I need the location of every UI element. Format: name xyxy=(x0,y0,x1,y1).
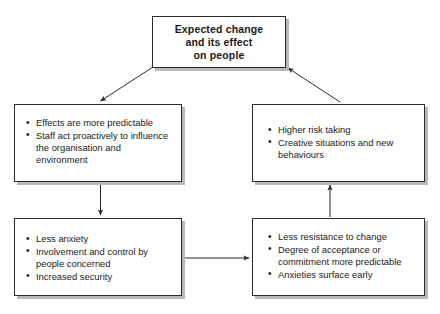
bullet-list: Higher risk taking Creative situations a… xyxy=(267,124,416,161)
list-item: Higher risk taking xyxy=(267,124,416,136)
list-item: Anxieties surface early xyxy=(267,269,416,281)
bullet-list: Less anxiety Involvement and control by … xyxy=(25,233,173,283)
list-item: Creative situations and new behaviours xyxy=(267,137,416,162)
list-item: Staff act proactively to influence the o… xyxy=(25,130,173,167)
node-less-anxiety: Less anxiety Involvement and control by … xyxy=(14,218,182,296)
list-item: Increased security xyxy=(25,271,173,283)
node-expected-change-title-line-3: on people xyxy=(194,49,245,61)
list-item: Less anxiety xyxy=(25,233,173,245)
node-higher-risk-body: Higher risk taking Creative situations a… xyxy=(253,105,424,170)
bullet-list: Effects are more predictable Staff act p… xyxy=(25,117,173,167)
list-item: Effects are more predictable xyxy=(25,117,173,129)
bullet-list: Less resistance to change Degree of acce… xyxy=(267,231,416,281)
page-edge-artifact xyxy=(0,0,440,11)
diagram-canvas: Expected change and its effect on people… xyxy=(0,0,440,314)
list-item: Degree of acceptance or commitment more … xyxy=(267,244,416,269)
arrow-expected-change-to-effects xyxy=(101,67,154,101)
node-expected-change-title-line-2: and its effect xyxy=(186,36,253,48)
node-less-resistance-body: Less resistance to change Degree of acce… xyxy=(253,219,424,290)
node-less-resistance: Less resistance to change Degree of acce… xyxy=(252,218,425,296)
node-expected-change-title: Expected change and its effect on people xyxy=(169,23,270,62)
node-expected-change-title-line-1: Expected change xyxy=(175,23,264,35)
node-effects-predictable: Effects are more predictable Staff act p… xyxy=(14,104,182,182)
node-effects-predictable-body: Effects are more predictable Staff act p… xyxy=(15,105,181,175)
node-higher-risk: Higher risk taking Creative situations a… xyxy=(252,104,425,182)
node-less-anxiety-body: Less anxiety Involvement and control by … xyxy=(15,219,181,292)
list-item: Less resistance to change xyxy=(267,231,416,243)
list-item: Involvement and control by people concer… xyxy=(25,246,173,271)
node-expected-change: Expected change and its effect on people xyxy=(152,16,286,68)
arrow-higher-risk-to-expected-change xyxy=(288,68,340,102)
